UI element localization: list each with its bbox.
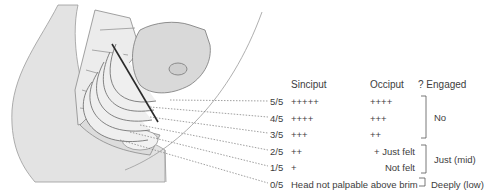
header-occiput: Occiput xyxy=(370,79,404,90)
fifths-1: 1/5 xyxy=(270,162,283,173)
fifths-2: 2/5 xyxy=(270,146,283,157)
fifths-0: 0/5 xyxy=(270,179,283,190)
fifths-4: 4/5 xyxy=(270,113,283,124)
fetal-ear xyxy=(169,63,187,75)
engaged-just: Just (mid) xyxy=(434,154,476,165)
sinciput-5: +++++ xyxy=(291,96,319,107)
sinciput-3: +++ xyxy=(291,129,308,140)
occiput-2: + Just felt xyxy=(348,146,415,157)
header-sinciput: Sinciput xyxy=(291,79,327,90)
sinciput-1: + xyxy=(291,162,297,173)
engaged-no: No xyxy=(434,112,446,123)
occiput-5: ++++ xyxy=(370,96,392,107)
fifths-3: 3/5 xyxy=(270,129,283,140)
sinciput-4: ++++ xyxy=(291,113,313,124)
occiput-4: +++ xyxy=(370,113,387,124)
sinciput-2: ++ xyxy=(291,146,302,157)
header-engaged: ? Engaged xyxy=(418,79,466,90)
fetal-head xyxy=(133,22,211,93)
fifths-5: 5/5 xyxy=(270,96,283,107)
occiput-3: ++ xyxy=(370,129,381,140)
sinciput-0: Head not palpable above brim xyxy=(291,179,418,190)
engaged-deeply: Deeply (low) xyxy=(431,179,484,190)
pelvis-fetal-head-illustration xyxy=(0,0,489,195)
engagement-brackets xyxy=(419,96,426,186)
occiput-1: Not felt xyxy=(348,162,415,173)
